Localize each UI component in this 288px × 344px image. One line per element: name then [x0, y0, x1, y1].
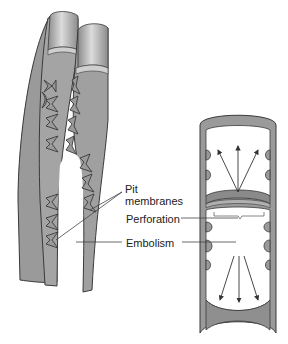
pit-membranes-label-line1: Pit — [125, 183, 183, 195]
perforation-label: Perforation — [126, 213, 180, 225]
tracheids-illustration — [18, 12, 108, 293]
vessel-element-illustration — [200, 115, 276, 333]
xylem-diagram: Pit membranes Perforation Embolism — [0, 0, 288, 344]
pit-membranes-label: Pit membranes — [125, 183, 183, 207]
embolism-label: Embolism — [126, 237, 174, 249]
pit-membranes-label-line2: membranes — [125, 195, 183, 207]
